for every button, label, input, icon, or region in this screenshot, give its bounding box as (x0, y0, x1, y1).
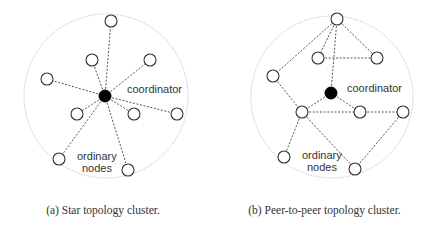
ordinary-node (53, 153, 65, 165)
ordinary-node (171, 108, 183, 120)
peer-to-peer-topology-diagram: coordinator ordinary nodes (212, 0, 423, 226)
ordinary-node (71, 108, 83, 120)
ordinary-node (122, 164, 134, 176)
ordinary-node (278, 151, 290, 163)
ordinary-node (397, 106, 409, 118)
ordinary-label-line1: ordinary (77, 150, 117, 162)
ordinary-label-line2: nodes (307, 161, 337, 173)
ordinary-node (105, 15, 117, 27)
coordinator-node (99, 90, 111, 102)
ordinary-node (267, 70, 279, 82)
caption-a: (a) Star topology cluster. (0, 204, 209, 216)
ordinary-node (312, 52, 324, 64)
ordinary-node (354, 106, 366, 118)
ordinary-node (86, 54, 98, 66)
star-edges (47, 21, 177, 170)
caption-b: (b) Peer-to-peer topology cluster. (219, 204, 423, 216)
ordinary-node (371, 52, 383, 64)
coordinator-node (325, 87, 337, 99)
star-topology-panel: coordinator ordinary nodes (a) Star topo… (0, 0, 212, 226)
mesh-edges (273, 19, 403, 169)
ordinary-node (144, 54, 156, 66)
ordinary-node (296, 106, 308, 118)
ordinary-node (41, 73, 53, 85)
ordinary-label-line1: ordinary (302, 149, 342, 161)
ordinary-node (331, 13, 343, 25)
coordinator-label: coordinator (347, 82, 402, 94)
peer-to-peer-topology-panel: coordinator ordinary nodes (b) Peer-to-p… (212, 0, 423, 226)
ordinary-node (128, 108, 140, 120)
ordinary-label-line2: nodes (82, 162, 112, 174)
coordinator-label: coordinator (127, 83, 182, 95)
ordinary-node (349, 163, 361, 175)
star-topology-diagram: coordinator ordinary nodes (0, 0, 212, 226)
